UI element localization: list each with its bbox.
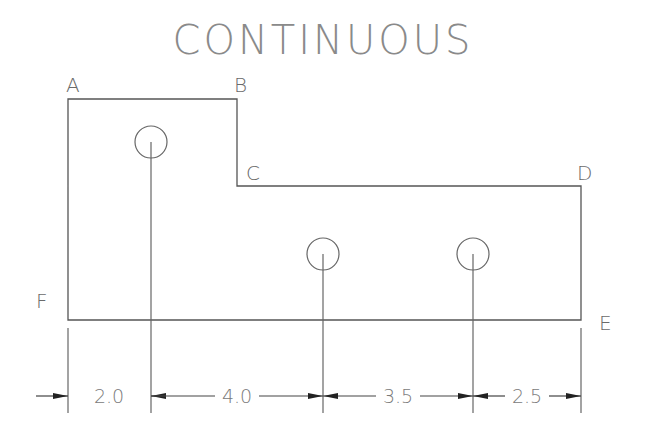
vertex-label-b: B (234, 73, 247, 97)
dimension-chain: 2.04.03.52.5 (36, 385, 581, 407)
cad-drawing: CONTINUOUS ABCDEF 2.04.03.52.5 (0, 0, 647, 435)
arrowhead (458, 393, 473, 399)
part-outline (68, 99, 581, 320)
arrowhead (566, 393, 581, 399)
dimension-2.5: 2.5 (473, 385, 581, 407)
dimension-value: 3.5 (383, 385, 413, 407)
dimension-value: 4.0 (222, 385, 252, 407)
vertex-label-c: C (246, 161, 260, 185)
dimension-3.5: 3.5 (323, 385, 473, 407)
arrowhead (323, 393, 338, 399)
vertex-label-a: A (66, 73, 80, 97)
dimension-value: 2.0 (94, 385, 124, 407)
arrowhead (53, 393, 68, 399)
extension-lines (68, 142, 581, 413)
holes (135, 126, 489, 270)
arrowhead (308, 393, 323, 399)
dimension-value: 2.5 (512, 385, 542, 407)
linetype-title: CONTINUOUS (173, 17, 474, 63)
arrowhead (473, 393, 488, 399)
vertex-label-d: D (577, 161, 592, 185)
dimension-4.0: 4.0 (151, 385, 323, 407)
vertex-label-f: F (36, 289, 48, 313)
vertex-label-e: E (599, 311, 612, 335)
vertex-labels: ABCDEF (36, 73, 612, 335)
